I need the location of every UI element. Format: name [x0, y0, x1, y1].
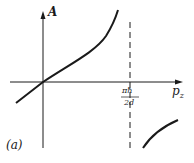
x-axis-label-subscript: z: [180, 91, 184, 100]
asymptote-denominator: 2d: [124, 98, 134, 107]
x-axis-label: pz: [172, 84, 184, 100]
panel-label: (a): [6, 138, 23, 152]
asymptote-numerator: πħ: [122, 86, 132, 95]
plot-canvas: [0, 0, 194, 163]
y-axis-arrow: [41, 11, 46, 19]
curve-upper-branch: [16, 10, 118, 103]
y-axis-label: A: [48, 5, 57, 19]
x-axis-label-main: p: [172, 84, 180, 98]
curve-lower-branch: [143, 120, 178, 148]
